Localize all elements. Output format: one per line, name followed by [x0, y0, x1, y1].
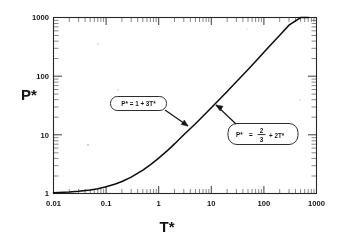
x-axis-tick-labels: 0.01 0.1 1 10 100 1000 — [46, 199, 325, 208]
data-curve — [54, 18, 309, 193]
annotation-low-temp-arrow-head — [181, 120, 188, 126]
annotation-high-temperature-limit[interactable]: P* = 2 3 + 2T* — [216, 105, 298, 145]
y-axis-major-ticks — [54, 18, 317, 194]
x-axis-title: T* — [160, 218, 175, 235]
chart-svg: P* = 1 + 3T* P* = 2 3 + 2T* 1000 100 10 … — [0, 0, 337, 247]
x-tick-label-10: 10 — [207, 199, 215, 208]
plot-frame — [54, 18, 317, 194]
annotation-high-temp-lhs: P* — [236, 131, 243, 138]
x-tick-label-0-1: 0.1 — [101, 199, 112, 208]
x-axis-minor-ticks — [69, 18, 314, 194]
x-axis-major-ticks — [54, 18, 317, 194]
x-tick-label-1: 1 — [157, 199, 162, 208]
y-tick-label-100: 100 — [36, 72, 49, 81]
x-tick-label-100: 100 — [258, 199, 271, 208]
annotation-high-temp-numerator: 2 — [260, 127, 264, 134]
annotation-high-temp-relation: = — [249, 131, 253, 138]
y-axis-title: P* — [21, 86, 37, 103]
chart-figure: P* = 1 + 3T* P* = 2 3 + 2T* 1000 100 10 … — [0, 0, 337, 247]
y-axis-minor-ticks — [54, 20, 317, 176]
y-tick-label-1000: 1000 — [32, 13, 49, 22]
annotation-low-temp-text: P* = 1 + 3T* — [121, 100, 156, 107]
x-tick-label-1000: 1000 — [308, 199, 325, 208]
y-axis-tick-labels: 1000 100 10 1 — [32, 13, 50, 198]
y-tick-label-10: 10 — [41, 131, 49, 140]
x-tick-label-0-01: 0.01 — [46, 199, 62, 208]
annotation-high-temp-denominator: 3 — [260, 136, 264, 143]
annotation-high-temp-tail: + 2T* — [269, 132, 285, 139]
y-tick-label-1: 1 — [45, 189, 50, 198]
annotation-low-temperature-limit[interactable]: P* = 1 + 3T* — [111, 97, 189, 127]
